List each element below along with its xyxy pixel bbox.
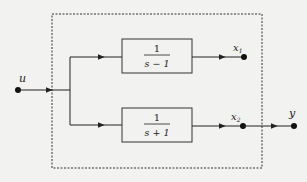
svg-text:s + 1: s + 1 xyxy=(145,127,170,138)
x1-node xyxy=(241,54,247,60)
output-node xyxy=(291,123,297,129)
svg-text:s − 1: s − 1 xyxy=(145,58,170,69)
svg-text:1: 1 xyxy=(154,43,160,54)
x1-label: x1 xyxy=(233,42,242,54)
system-boundary xyxy=(52,14,262,168)
output-label: y xyxy=(288,107,296,120)
svg-text:1: 1 xyxy=(154,112,160,123)
transfer-block-top: 1 s − 1 xyxy=(122,39,192,73)
input-label: u xyxy=(19,72,26,85)
transfer-block-bottom: 1 s + 1 xyxy=(122,108,192,142)
x2-label: x2 xyxy=(231,111,241,123)
block-diagram: u 1 s − 1 1 s + 1 x1 x2 y xyxy=(0,0,307,182)
